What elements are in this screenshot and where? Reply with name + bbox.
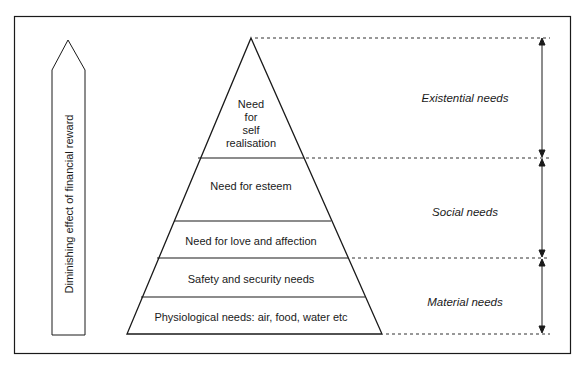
level-self-realisation-line-2: for xyxy=(211,111,291,124)
level-self-realisation: Need for self realisation xyxy=(211,98,291,150)
level-self-realisation-line-3: self xyxy=(211,124,291,137)
level-safety-security: Safety and security needs xyxy=(161,273,341,286)
category-existential: Existential needs xyxy=(410,92,520,105)
level-self-realisation-line-4: realisation xyxy=(211,137,291,150)
range-arrow-existential-icon xyxy=(539,38,545,157)
level-love-affection: Need for love and affection xyxy=(171,235,331,248)
range-arrow-material-icon xyxy=(539,259,545,333)
category-material: Material needs xyxy=(410,296,520,309)
level-esteem: Need for esteem xyxy=(181,180,321,193)
range-arrow-social-icon xyxy=(539,159,545,257)
level-self-realisation-line-1: Need xyxy=(211,98,291,111)
level-physiological: Physiological needs: air, food, water et… xyxy=(141,311,361,324)
category-social: Social needs xyxy=(410,206,520,219)
financial-reward-label: Diminishing effect of financial reward xyxy=(63,104,75,304)
